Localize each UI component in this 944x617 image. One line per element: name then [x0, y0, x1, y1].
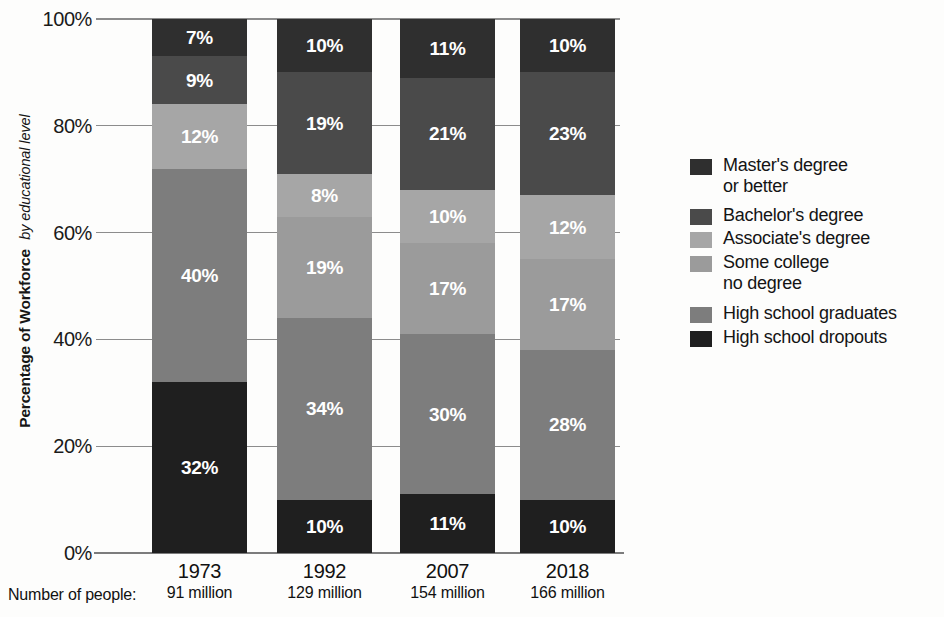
- bar-segment-value-label: 8%: [311, 186, 338, 205]
- bar-segment-value-label: 10%: [549, 517, 586, 536]
- bar-1973[interactable]: 32%40%12%9%7%: [152, 19, 247, 553]
- legend-label: High school dropouts: [723, 327, 887, 348]
- x-axis-people-count: 166 million: [520, 583, 615, 602]
- bar-segment[interactable]: 12%: [152, 104, 247, 168]
- bar-segment-value-label: 19%: [306, 114, 343, 133]
- bar-segment[interactable]: 21%: [400, 78, 495, 190]
- bar-segment-value-label: 17%: [549, 295, 586, 314]
- x-axis-label-1992: 1992129 million: [277, 560, 372, 603]
- bar-segment[interactable]: 30%: [400, 334, 495, 494]
- legend-color-swatch: [690, 232, 712, 248]
- bar-segment-value-label: 30%: [429, 405, 466, 424]
- x-axis-people-count: 154 million: [400, 583, 495, 602]
- number-of-people-caption: Number of people:: [8, 586, 136, 604]
- x-axis-year: 2007: [400, 560, 495, 582]
- bar-segment[interactable]: 11%: [400, 494, 495, 553]
- bar-segment[interactable]: 7%: [152, 19, 247, 56]
- y-axis-tick-label: 100%: [42, 8, 92, 31]
- legend-label: Some college no degree: [723, 252, 829, 295]
- x-axis-year: 2018: [520, 560, 615, 582]
- bar-segment-value-label: 12%: [181, 127, 218, 146]
- legend-item[interactable]: Master's degree or better: [690, 155, 940, 198]
- bar-segment-value-label: 28%: [549, 415, 586, 434]
- legend-color-swatch: [690, 159, 712, 175]
- legend-item[interactable]: High school graduates: [690, 303, 940, 324]
- bar-segment-value-label: 11%: [429, 514, 465, 533]
- bar-segment-value-label: 10%: [306, 517, 343, 536]
- bar-segment[interactable]: 19%: [277, 72, 372, 173]
- bar-segment-value-label: 11%: [429, 39, 465, 58]
- bar-segment-value-label: 23%: [549, 124, 586, 143]
- bar-segment[interactable]: 10%: [277, 19, 372, 72]
- bar-2018[interactable]: 10%28%17%12%23%10%: [520, 19, 615, 553]
- bar-segment[interactable]: 32%: [152, 382, 247, 553]
- bar-segment-value-label: 9%: [186, 71, 213, 90]
- legend-label: Master's degree or better: [723, 155, 848, 198]
- bar-segment[interactable]: 19%: [277, 217, 372, 318]
- y-axis-title-main: Percentage of Workforce: [16, 249, 33, 428]
- plot-area: 0%20%40%60%80%100%32%40%12%9%7%10%34%19%…: [108, 19, 620, 553]
- x-axis-year: 1973: [152, 560, 247, 582]
- bar-segment-value-label: 10%: [549, 36, 586, 55]
- bar-segment-value-label: 10%: [306, 36, 343, 55]
- bar-segment[interactable]: 11%: [400, 19, 495, 78]
- bar-1992[interactable]: 10%34%19%8%19%10%: [277, 19, 372, 553]
- legend-color-swatch: [690, 307, 712, 323]
- y-axis-title-sub: by educational level: [17, 114, 33, 239]
- bar-segment-value-label: 12%: [549, 218, 586, 237]
- bar-segment-value-label: 21%: [429, 124, 466, 143]
- legend-item[interactable]: Bachelor's degree: [690, 205, 940, 226]
- x-axis-label-2018: 2018166 million: [520, 560, 615, 603]
- y-axis-title: Percentage of Workforce by educational l…: [0, 0, 46, 560]
- bar-segment[interactable]: 9%: [152, 56, 247, 104]
- legend-item[interactable]: Associate's degree: [690, 228, 940, 249]
- x-axis-label-2007: 2007154 million: [400, 560, 495, 603]
- x-axis-label-1973: 197391 million: [152, 560, 247, 603]
- bar-segment[interactable]: 23%: [520, 72, 615, 195]
- bar-segment[interactable]: 10%: [520, 500, 615, 553]
- legend-color-swatch: [690, 331, 712, 347]
- legend: Master's degree or betterBachelor's degr…: [690, 155, 940, 350]
- bar-segment-value-label: 34%: [306, 399, 343, 418]
- bar-segment[interactable]: 40%: [152, 169, 247, 383]
- y-axis-tick-label: 40%: [53, 328, 92, 351]
- bar-segment[interactable]: 10%: [277, 500, 372, 553]
- bar-segment-value-label: 32%: [181, 458, 218, 477]
- legend-color-swatch: [690, 256, 712, 272]
- chart-page: Percentage of Workforce by educational l…: [0, 0, 944, 617]
- y-axis-tick-label: 60%: [53, 221, 92, 244]
- y-axis-tick-label: 80%: [53, 114, 92, 137]
- legend-color-swatch: [690, 209, 712, 225]
- bar-segment[interactable]: 8%: [277, 174, 372, 217]
- legend-label: High school graduates: [723, 303, 897, 324]
- bar-2007[interactable]: 11%30%17%10%21%11%: [400, 19, 495, 553]
- bar-segment-value-label: 19%: [306, 258, 343, 277]
- bar-segment[interactable]: 34%: [277, 318, 372, 500]
- bar-segment[interactable]: 17%: [520, 259, 615, 350]
- bar-segment[interactable]: 28%: [520, 350, 615, 500]
- legend-label: Bachelor's degree: [723, 205, 863, 226]
- legend-item[interactable]: Some college no degree: [690, 252, 940, 295]
- bar-segment[interactable]: 10%: [400, 190, 495, 243]
- x-axis-people-count: 129 million: [277, 583, 372, 602]
- x-axis-year: 1992: [277, 560, 372, 582]
- bar-segment[interactable]: 17%: [400, 243, 495, 334]
- bar-segment[interactable]: 10%: [520, 19, 615, 72]
- bar-segment[interactable]: 12%: [520, 195, 615, 259]
- bar-segment-value-label: 40%: [181, 266, 218, 285]
- legend-label: Associate's degree: [723, 228, 870, 249]
- bar-segment-value-label: 10%: [429, 207, 466, 226]
- bar-segment-value-label: 17%: [429, 279, 466, 298]
- legend-item[interactable]: High school dropouts: [690, 327, 940, 348]
- bar-segment-value-label: 7%: [186, 28, 213, 47]
- y-axis-tick-label: 20%: [53, 435, 92, 458]
- y-axis-tick-label: 0%: [64, 542, 92, 565]
- x-axis-people-count: 91 million: [152, 583, 247, 602]
